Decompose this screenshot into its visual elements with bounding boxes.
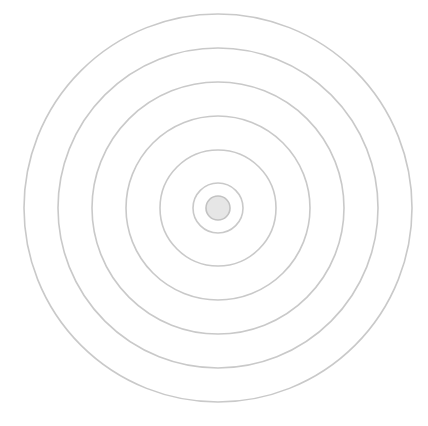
concentric-circles-diagram bbox=[0, 0, 428, 426]
center-dot bbox=[206, 196, 230, 220]
